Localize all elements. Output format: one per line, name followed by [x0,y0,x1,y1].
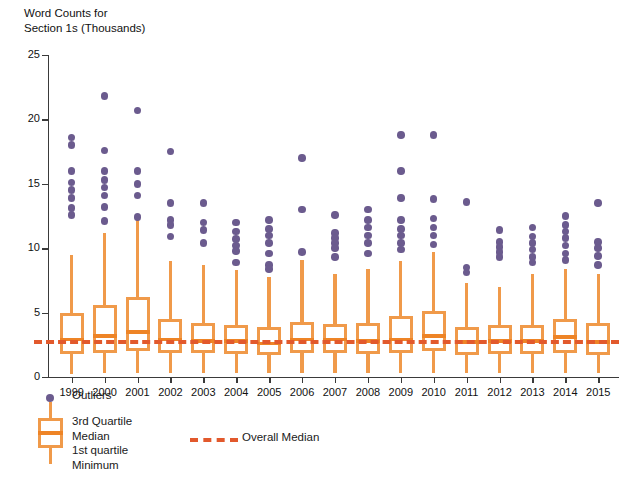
upper-whisker [267,277,270,327]
upper-whisker [333,274,336,324]
outlier-point [562,256,570,264]
outlier-point [101,176,109,184]
outlier-point [430,232,438,240]
median-line [93,334,117,338]
y-axis-line [48,55,49,377]
upper-whisker [235,270,238,325]
outlier-point [265,232,273,240]
outlier-point [232,259,240,267]
boxplot-1999 [60,55,84,377]
legend-lower-whisker-icon [49,448,52,464]
boxplot-2012 [488,55,512,377]
lower-whisker [333,353,336,374]
lower-whisker [399,353,402,374]
outlier-point [134,192,142,200]
y-tick [42,119,48,120]
boxplot-2011 [455,55,479,377]
outlier-point [298,154,306,162]
boxplot-2000 [93,55,117,377]
outlier-point [68,179,76,187]
outlier-point [101,217,109,225]
boxplot-2005 [257,55,281,377]
boxplot-2015 [586,55,610,377]
lower-whisker [432,351,435,373]
x-tick [170,377,171,383]
boxplot-2014 [553,55,577,377]
y-tick-label: 0 [6,370,40,382]
outlier-point [200,219,208,227]
y-tick-label: 10 [6,241,40,253]
outlier-point [364,224,372,232]
upper-whisker [366,269,369,323]
chart-legend: Outliers 3rd Quartile Median 1st quartil… [24,392,424,478]
x-tick [434,377,435,383]
outlier-point [134,213,142,221]
boxplot-2008 [356,55,380,377]
iqr-box [60,313,84,354]
outlier-point [200,239,208,247]
iqr-box [158,319,182,352]
outlier-point [397,194,405,202]
outlier-point [397,167,405,175]
outlier-point [68,167,76,175]
outlier-point [331,244,339,252]
outlier-point [101,147,109,155]
outlier-point [364,232,372,240]
iqr-box [389,316,413,352]
outlier-point [364,239,372,247]
upper-whisker [597,274,600,323]
outlier-point [167,221,175,229]
x-tick [302,377,303,383]
outlier-point [68,134,76,142]
x-tick [203,377,204,383]
upper-whisker [300,260,303,322]
outlier-point [167,199,175,207]
legend-overall-median-label: Overall Median [242,431,319,443]
upper-whisker [169,261,172,319]
upper-whisker [531,274,534,326]
outlier-point [397,246,405,254]
outlier-point [364,206,372,214]
outlier-point [594,261,602,269]
boxplot-2010 [422,55,446,377]
outlier-point [101,167,109,175]
legend-outlier-dot-icon [46,394,54,402]
x-tick [105,377,106,383]
boxplot-2007 [323,55,347,377]
x-tick-label: 2015 [576,386,620,398]
lower-whisker [202,353,205,374]
iqr-box [586,323,610,355]
outlier-point [101,192,109,200]
outlier-point [430,241,438,249]
outlier-point [594,199,602,207]
lower-whisker [465,355,468,373]
outlier-point [364,216,372,224]
outlier-point [331,211,339,219]
outlier-point [430,131,438,139]
x-tick [72,377,73,383]
outlier-point [265,265,273,273]
outlier-point [529,246,537,254]
outlier-point [562,242,570,250]
outlier-point [397,232,405,240]
x-tick [565,377,566,383]
chart-root: Word Counts for Section 1s (Thousands) 0… [0,0,627,479]
outlier-point [331,253,339,261]
y-tick-label: 20 [6,112,40,124]
iqr-box [93,305,117,353]
outlier-point [496,253,504,261]
outlier-point [463,198,471,206]
y-tick [42,184,48,185]
upper-whisker [202,265,205,323]
x-tick [269,377,270,383]
outlier-point [200,226,208,234]
outlier-point [134,107,142,115]
x-tick [598,377,599,383]
outlier-point [463,269,471,277]
x-tick [236,377,237,383]
outlier-point [265,216,273,224]
upper-whisker [103,233,106,305]
boxplot-2001 [126,55,150,377]
x-tick [401,377,402,383]
x-tick [532,377,533,383]
